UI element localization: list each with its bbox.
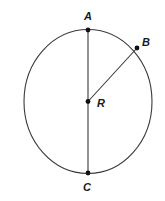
- point-a-marker: [86, 28, 91, 33]
- center-point-r-label: R: [97, 97, 105, 109]
- point-b-label: B: [142, 36, 150, 48]
- point-b-marker: [135, 46, 140, 51]
- diagram-canvas: A B R C: [0, 0, 165, 201]
- circle-diagram-figure: A B R C: [0, 0, 165, 201]
- point-c-marker: [86, 171, 91, 176]
- point-c-label: C: [83, 181, 92, 193]
- point-r-marker: [86, 99, 91, 104]
- point-a-label: A: [83, 10, 92, 22]
